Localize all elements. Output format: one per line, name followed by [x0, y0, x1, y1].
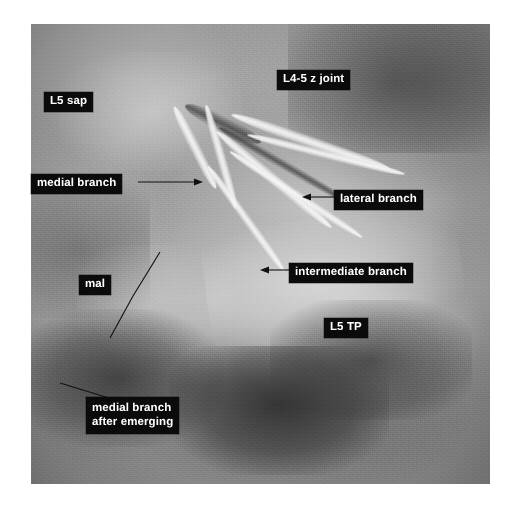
label-l5-tp: L5 TP [324, 318, 368, 338]
label-mal: mal [79, 275, 111, 295]
label-intermediate-branch: intermediate branch [289, 263, 413, 283]
ghost-caption-bleed-through [64, 487, 460, 507]
label-l5-sap: L5 sap [44, 92, 93, 112]
label-l4-5-z-joint: L4-5 z joint [277, 70, 350, 90]
label-line-2: after emerging [92, 416, 173, 428]
label-lateral-branch: lateral branch [334, 190, 423, 210]
label-medial-branch: medial branch [31, 174, 122, 194]
label-line-1: medial branch [92, 402, 171, 414]
shadow-region-lower-right [270, 300, 472, 420]
figure-root: L4-5 z joint L5 sap medial branch latera… [0, 0, 514, 515]
label-medial-branch-after-emerging: medial branchafter emerging [86, 397, 179, 434]
